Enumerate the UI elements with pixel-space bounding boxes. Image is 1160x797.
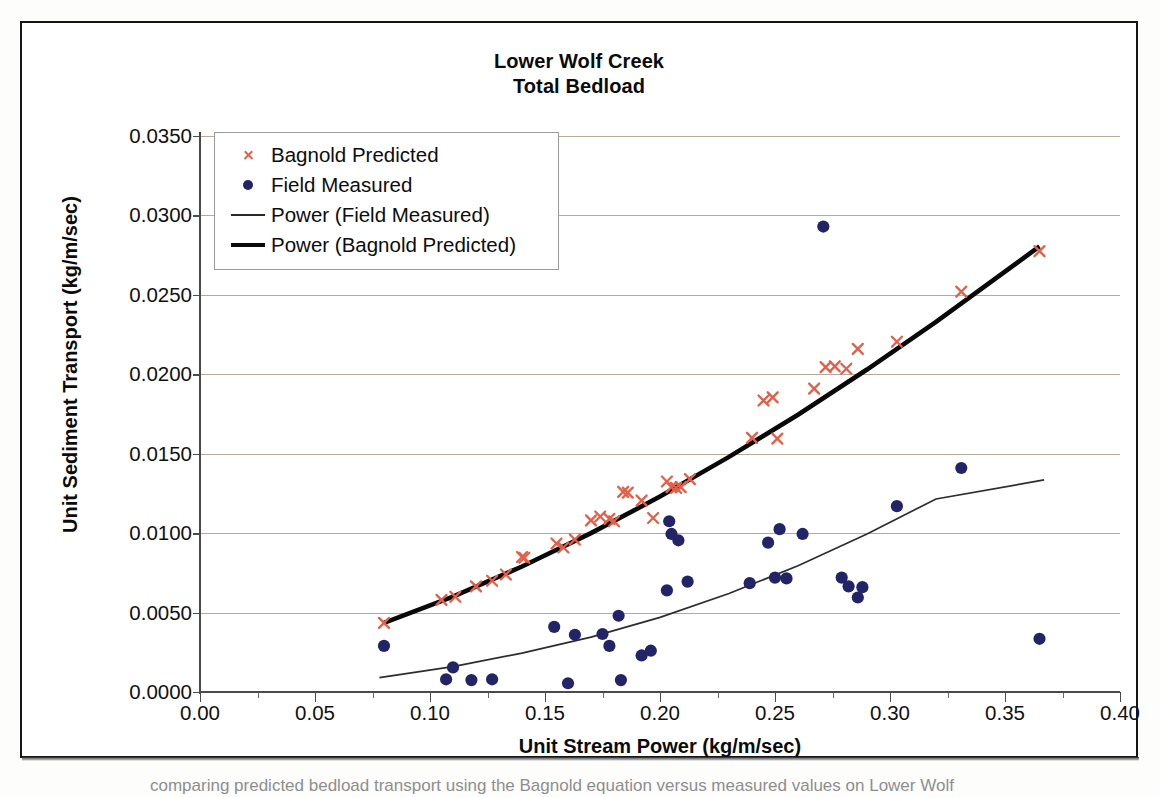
thick-line-icon xyxy=(231,243,265,247)
data-point-dot xyxy=(465,674,477,686)
data-point-dot xyxy=(891,500,903,512)
data-point-cross xyxy=(830,361,840,371)
x-axis-tick-label: 0.30 xyxy=(850,701,930,725)
data-point-cross xyxy=(759,396,769,406)
page-caption-clip: comparing predicted bedload transport us… xyxy=(0,779,1160,797)
x-axis-tick-label: 0.00 xyxy=(160,701,240,725)
legend-item-label: Power (Bagnold Predicted) xyxy=(271,233,516,257)
legend-item[interactable]: Bagnold Predicted xyxy=(215,140,558,170)
y-axis-tick-label: 0.0350 xyxy=(100,124,192,148)
data-point-dot xyxy=(843,580,855,592)
data-point-dot xyxy=(569,629,581,641)
data-point-dot xyxy=(596,628,608,640)
y-axis-tick-label: 0.0200 xyxy=(100,362,192,386)
data-point-cross xyxy=(586,515,596,525)
legend-item[interactable]: Power (Bagnold Predicted) xyxy=(215,230,558,260)
y-axis-tick-label: 0.0100 xyxy=(100,521,192,545)
x-axis-tick xyxy=(315,692,316,702)
data-point-dot xyxy=(762,537,774,549)
chart-title-line2: Total Bedload xyxy=(22,74,1136,99)
x-axis-minor-tick xyxy=(603,692,604,698)
x-axis-tick xyxy=(430,692,431,702)
data-point-dot xyxy=(615,674,627,686)
data-point-dot xyxy=(856,581,868,593)
data-point-dot xyxy=(663,515,675,527)
data-point-dot xyxy=(955,462,967,474)
x-axis-minor-tick xyxy=(488,692,489,698)
series-bagnold-predicted xyxy=(379,246,1045,628)
data-point-cross xyxy=(772,434,782,444)
frame-shadow xyxy=(22,757,1139,761)
cross-marker-icon xyxy=(243,150,254,161)
y-axis-tick-label: 0.0050 xyxy=(100,601,192,625)
legend-item-label: Bagnold Predicted xyxy=(271,143,439,167)
x-axis-title: Unit Stream Power (kg/m/sec) xyxy=(200,735,1120,758)
data-point-dot xyxy=(447,661,459,673)
data-point-dot xyxy=(797,528,809,540)
x-axis-minor-tick xyxy=(1063,692,1064,698)
data-point-dot xyxy=(682,575,694,587)
data-point-cross xyxy=(956,287,966,297)
x-axis-minor-tick xyxy=(373,692,374,698)
x-axis-minor-tick xyxy=(258,692,259,698)
dot-marker-icon xyxy=(243,180,253,190)
data-point-cross xyxy=(809,384,819,394)
data-point-dot xyxy=(645,645,657,657)
x-axis-tick xyxy=(660,692,661,702)
x-axis-tick xyxy=(890,692,891,702)
x-axis-tick-label: 0.20 xyxy=(620,701,700,725)
chart-frame: Lower Wolf Creek Total Bedload Unit Sedi… xyxy=(20,21,1138,758)
data-point-dot xyxy=(774,523,786,535)
legend-key xyxy=(225,180,271,190)
data-point-dot xyxy=(661,584,673,596)
x-axis-tick-label: 0.25 xyxy=(735,701,815,725)
x-axis-tick-label: 0.15 xyxy=(505,701,585,725)
y-axis-title: Unit Sediment Transport (kg/m/sec) xyxy=(59,85,82,645)
data-point-dot xyxy=(378,640,390,652)
y-axis-tick-label: 0.0150 xyxy=(100,442,192,466)
x-axis-minor-tick xyxy=(718,692,719,698)
page-caption: comparing predicted bedload transport us… xyxy=(150,779,1160,796)
x-axis-tick-label: 0.35 xyxy=(965,701,1045,725)
thin-line-icon xyxy=(231,214,265,216)
data-point-dot xyxy=(744,577,756,589)
x-axis-tick xyxy=(1005,692,1006,702)
legend-key xyxy=(225,214,271,216)
data-point-cross xyxy=(768,392,778,402)
data-point-cross xyxy=(892,337,902,347)
x-axis-tick xyxy=(775,692,776,702)
legend-key xyxy=(225,150,271,161)
data-point-dot xyxy=(817,220,829,232)
data-point-dot xyxy=(486,673,498,685)
x-axis-tick-label: 0.40 xyxy=(1080,701,1160,725)
data-point-dot xyxy=(548,621,560,633)
data-point-dot xyxy=(613,610,625,622)
data-point-cross xyxy=(648,513,658,523)
x-axis-tick-label: 0.10 xyxy=(390,701,470,725)
legend-key xyxy=(225,243,271,247)
x-axis-minor-tick xyxy=(833,692,834,698)
x-axis-tick xyxy=(1120,692,1121,702)
scanned-page: Lower Wolf Creek Total Bedload Unit Sedi… xyxy=(0,0,1160,797)
x-axis-minor-tick xyxy=(948,692,949,698)
x-axis-tick-labels: 0.000.050.100.150.200.250.300.350.40 xyxy=(200,701,1120,731)
x-axis-tick xyxy=(545,692,546,702)
data-point-dot xyxy=(672,534,684,546)
data-point-dot xyxy=(562,677,574,689)
y-axis-tick-label: 0.0300 xyxy=(100,203,192,227)
y-axis-tick-label: 0.0250 xyxy=(100,283,192,307)
chart-title: Lower Wolf Creek Total Bedload xyxy=(22,49,1136,99)
legend-item[interactable]: Power (Field Measured) xyxy=(215,200,558,230)
legend-item-label: Field Measured xyxy=(271,173,412,197)
y-axis-tick-labels: 0.00000.00500.01000.01500.02000.02500.03… xyxy=(92,136,192,692)
data-point-cross xyxy=(853,344,863,354)
data-point-dot xyxy=(780,572,792,584)
data-point-dot xyxy=(603,640,615,652)
data-point-dot xyxy=(1033,633,1045,645)
x-axis-tick-label: 0.05 xyxy=(275,701,355,725)
legend-item-label: Power (Field Measured) xyxy=(271,203,490,227)
data-point-cross xyxy=(841,364,851,374)
trendline-power-field-measured xyxy=(379,480,1044,678)
legend[interactable]: Bagnold PredictedField MeasuredPower (Fi… xyxy=(214,132,559,270)
legend-item[interactable]: Field Measured xyxy=(215,170,558,200)
